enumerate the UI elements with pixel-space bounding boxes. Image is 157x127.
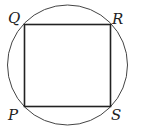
vertex-label-q: Q [8,9,20,27]
vertex-label-p: P [7,106,19,124]
vertex-label-r: R [111,10,123,28]
diagram-canvas: Q R P S [0,0,157,127]
inscribed-square [25,25,111,107]
vertex-label-s: S [111,106,121,124]
